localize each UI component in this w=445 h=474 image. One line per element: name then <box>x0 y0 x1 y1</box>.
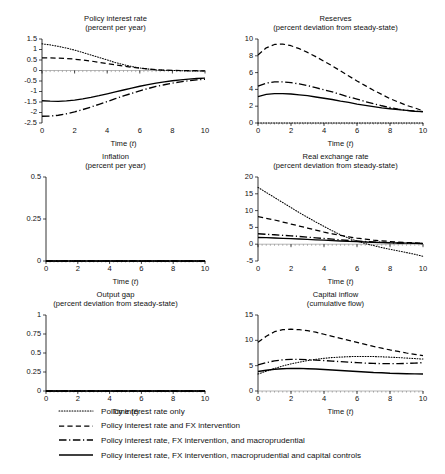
x-tick-label: 2 <box>289 126 293 135</box>
x-axis-title: Time (t) <box>113 277 139 286</box>
legend-label: Policy interest rate only <box>101 407 185 416</box>
series-line <box>258 356 423 374</box>
y-tick-label: 2 <box>249 101 253 110</box>
panel-title-main: Capital inflow <box>313 290 358 299</box>
dashed-line-key <box>57 421 95 431</box>
plot-area-output-gap: 10.750.50.2500246810Time (t) <box>8 309 223 413</box>
legend-item: Policy interest rate, FX intervention, m… <box>0 448 445 463</box>
x-tick-label: 8 <box>388 394 392 403</box>
x-tick-label: 10 <box>419 126 427 135</box>
y-tick-label: 1 <box>37 310 41 319</box>
plot-area-real-exchange-rate: 20151050-50246810Time (t) <box>228 171 443 283</box>
y-tick-label: 10 <box>245 34 253 43</box>
x-tick-label: 0 <box>44 394 48 403</box>
panel-subtitle: (percent deviation from steady-state) <box>228 161 443 170</box>
x-tick-label: 4 <box>322 264 326 273</box>
y-tick-label: 0 <box>37 256 41 265</box>
y-tick-label: 5 <box>249 222 253 231</box>
panel-subtitle: (cumulative flow) <box>228 299 443 308</box>
x-tick-label: 10 <box>201 264 209 273</box>
y-tick-label: 10 <box>245 205 253 214</box>
y-tick-label: 20 <box>245 172 253 181</box>
x-tick-label: 8 <box>388 126 392 135</box>
series-line <box>258 359 423 365</box>
x-tick-label: 4 <box>322 394 326 403</box>
panel-title-real-exchange-rate: Real exchange rate (percent deviation fr… <box>228 152 443 171</box>
y-tick-label: 0.5 <box>27 55 37 64</box>
panel-capital-inflow: Capital inflow (cumulative flow) 1510500… <box>228 290 443 418</box>
panel-title-output-gap: Output gap (percent deviation from stead… <box>8 290 223 309</box>
y-tick-label: 4 <box>249 84 253 93</box>
x-tick-label: 8 <box>170 126 174 135</box>
series-line <box>258 368 423 374</box>
plot-area-reserves: 02468100246810Time (t) <box>228 33 443 145</box>
svg-inflation: 0.50.2500246810Time (t) <box>8 171 223 283</box>
series-line <box>258 237 423 243</box>
y-tick-label: -2.5 <box>24 118 37 127</box>
panel-title-inflation: Inflation (percent per year) <box>8 152 223 171</box>
x-tick-label: 6 <box>138 126 142 135</box>
series-line <box>258 93 423 111</box>
y-tick-label: 0.5 <box>31 172 41 181</box>
x-tick-label: 10 <box>419 264 427 273</box>
y-tick-label: 0 <box>37 386 41 395</box>
svg-real-exchange-rate: 20151050-50246810Time (t) <box>228 171 443 283</box>
series-line <box>42 79 205 116</box>
series-line <box>258 216 423 243</box>
y-tick-label: 0.25 <box>27 214 41 223</box>
series-line <box>258 329 423 355</box>
x-tick-label: 4 <box>107 394 111 403</box>
x-tick-label: 0 <box>256 394 260 403</box>
x-tick-label: 6 <box>355 264 359 273</box>
x-tick-label: 2 <box>76 394 80 403</box>
x-tick-label: 2 <box>289 264 293 273</box>
x-tick-label: 0 <box>256 126 260 135</box>
panel-subtitle: (percent deviation from steady-state) <box>8 299 223 308</box>
panel-reserves: Reserves (percent deviation from steady-… <box>228 14 443 150</box>
series-line <box>258 82 423 112</box>
dotted-line-key <box>57 406 95 416</box>
y-tick-label: 5 <box>249 360 253 369</box>
panel-title-main: Policy interest rate <box>84 14 147 23</box>
x-tick-label: 10 <box>201 394 209 403</box>
x-tick-label: 6 <box>139 264 143 273</box>
y-tick-label: 15 <box>245 310 253 319</box>
x-tick-label: 8 <box>171 394 175 403</box>
y-tick-label: 0.25 <box>27 367 41 376</box>
x-tick-label: 6 <box>139 394 143 403</box>
x-tick-label: 8 <box>171 264 175 273</box>
x-tick-label: 0 <box>256 264 260 273</box>
x-tick-label: 6 <box>355 126 359 135</box>
panel-subtitle: (percent deviation from steady-state) <box>228 23 443 32</box>
x-tick-label: 10 <box>201 126 209 135</box>
panel-title-main: Reserves <box>319 14 351 23</box>
y-tick-label: 0 <box>249 118 253 127</box>
panel-real-exchange-rate: Real exchange rate (percent deviation fr… <box>228 152 443 288</box>
legend-label: Policy interest rate and FX intervention <box>101 421 240 430</box>
y-tick-label: 1.5 <box>27 34 37 43</box>
legend-item: Policy interest rate only <box>0 404 445 419</box>
x-tick-label: 8 <box>388 264 392 273</box>
y-tick-label: -1 <box>30 86 37 95</box>
legend-item: Policy interest rate, FX intervention, a… <box>0 433 445 448</box>
svg-capital-inflow: 1510500246810Time (t) <box>228 309 443 413</box>
panel-title-policy-interest-rate: Policy interest rate (percent per year) <box>8 14 223 33</box>
x-tick-label: 2 <box>72 126 76 135</box>
legend-label: Policy interest rate, FX intervention, m… <box>101 451 361 460</box>
x-tick-label: 4 <box>322 126 326 135</box>
y-tick-label: 10 <box>245 335 253 344</box>
y-tick-label: 8 <box>249 51 253 60</box>
x-tick-label: 10 <box>419 394 427 403</box>
dashdot-line-key <box>57 435 95 445</box>
svg-policy-interest-rate: 1.510.50-0.5-1-1.5-2-2.50246810Time (t) <box>8 33 223 145</box>
y-tick-label: 0 <box>249 239 253 248</box>
y-tick-label: 0.5 <box>31 348 41 357</box>
plot-area-capital-inflow: 1510500246810Time (t) <box>228 309 443 413</box>
x-tick-label: 2 <box>76 264 80 273</box>
y-tick-label: -5 <box>246 256 253 265</box>
figure-container: Policy interest rate (percent per year) … <box>0 0 445 474</box>
panel-title-capital-inflow: Capital inflow (cumulative flow) <box>228 290 443 309</box>
legend-item: Policy interest rate and FX intervention <box>0 419 445 434</box>
y-tick-label: 0 <box>249 386 253 395</box>
x-tick-label: 2 <box>289 394 293 403</box>
